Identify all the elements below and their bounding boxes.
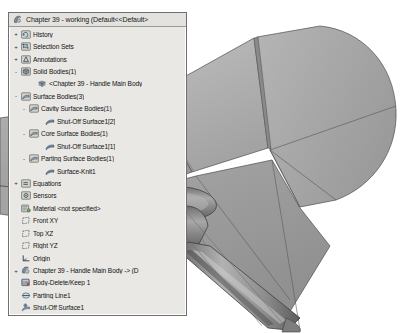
plane-icon xyxy=(20,216,31,226)
tree-node-label: Cavity Surface Bodies(1) xyxy=(41,105,112,112)
origin-icon xyxy=(20,253,31,263)
collapse-twisty-icon[interactable]: - xyxy=(20,131,28,137)
tree-node[interactable]: -Surface Bodies(3) xyxy=(9,90,186,102)
plane-icon xyxy=(20,241,31,251)
tree-node-label: Equations xyxy=(33,180,61,187)
tree-node-label: Shut-Off Surface1[1] xyxy=(57,143,115,150)
tree-node-label: Selection Sets xyxy=(33,43,74,50)
tree-node[interactable]: Top XZ xyxy=(9,227,186,239)
tree-node[interactable]: Surface-Knit1 xyxy=(9,165,186,177)
tree-node[interactable]: Material <not specified> xyxy=(9,202,186,214)
tree-node-label: Parting Surface Bodies(1) xyxy=(41,155,114,162)
tree-node[interactable]: Body-Delete/Keep 1 xyxy=(9,277,186,289)
expand-twisty-icon[interactable]: + xyxy=(12,268,20,274)
tree-node-label: <Chapter 39 - Handle Main Body xyxy=(49,80,142,87)
tree-node-label: Right YZ xyxy=(33,242,58,249)
solid-body-icon xyxy=(36,79,47,89)
collapse-twisty-icon[interactable]: - xyxy=(12,93,20,99)
tree-node[interactable]: Shut-Off Surface1 xyxy=(9,302,186,314)
tree-node-label: Top XZ xyxy=(33,230,53,237)
tree-node-label: Shut-Off Surface1[2] xyxy=(57,118,115,125)
surface-icon xyxy=(44,166,55,176)
parting-line-icon xyxy=(20,290,31,300)
surface-bodies-icon xyxy=(28,154,39,164)
tree-node-label: Surface-Knit1 xyxy=(57,168,96,175)
expand-twisty-icon[interactable]: + xyxy=(12,180,20,186)
equations-icon xyxy=(20,178,31,188)
tree-node[interactable]: -Cavity Surface Bodies(1) xyxy=(9,103,186,115)
selection-sets-icon xyxy=(20,42,31,52)
collapse-twisty-icon[interactable]: - xyxy=(12,69,20,75)
surface-icon xyxy=(44,141,55,151)
expand-twisty-icon[interactable]: + xyxy=(12,44,20,50)
surface-bodies-icon xyxy=(28,129,39,139)
document-icon xyxy=(12,15,23,25)
body-delete-keep-icon xyxy=(20,278,31,288)
tree-node[interactable]: Parting Line1 xyxy=(9,289,186,301)
tree-node[interactable]: Origin xyxy=(9,252,186,264)
parting-surface-icon xyxy=(20,315,31,316)
tree-node-label: Annotations xyxy=(33,56,67,63)
tree-node-label: Origin xyxy=(33,255,50,262)
surface-bodies-icon xyxy=(28,104,39,114)
annotations-icon xyxy=(20,54,31,64)
tree-node[interactable]: Right YZ xyxy=(9,239,186,251)
solid-bodies-icon xyxy=(20,67,31,77)
tree-title-text: Chapter 39 - working (Default<<Default> xyxy=(26,13,148,26)
tree-node-label: Front XY xyxy=(33,217,58,224)
tree-node-list[interactable]: +History+Selection Sets+Annotations-Soli… xyxy=(9,27,186,316)
tree-node[interactable]: <Chapter 39 - Handle Main Body xyxy=(9,78,186,90)
tree-node[interactable]: -Core Surface Bodies(1) xyxy=(9,128,186,140)
tree-node-label: Surface Bodies(3) xyxy=(33,93,84,100)
sensors-icon xyxy=(20,191,31,201)
tree-node[interactable]: -Parting Surface Bodies(1) xyxy=(9,152,186,164)
tree-node-label: Sensors xyxy=(33,192,57,199)
tree-node-label: Material <not specified> xyxy=(33,205,101,212)
tree-node[interactable]: Shut-Off Surface1[2] xyxy=(9,115,186,127)
tree-node-label: Shut-Off Surface1 xyxy=(33,304,84,311)
tree-node-label: Body-Delete/Keep 1 xyxy=(33,279,90,286)
collapse-twisty-icon[interactable]: - xyxy=(20,156,28,162)
tree-node-label: Parting Line1 xyxy=(33,292,71,299)
tree-node-label: Core Surface Bodies(1) xyxy=(41,130,108,137)
tree-node-label: History xyxy=(33,31,53,38)
material-icon xyxy=(20,203,31,213)
surface-bodies-icon xyxy=(20,91,31,101)
tree-node-label: Chapter 39 - Handle Main Body -> (D xyxy=(33,267,139,274)
tree-node[interactable]: +Annotations xyxy=(9,53,186,65)
tree-node[interactable]: Parting Surface1 xyxy=(9,314,186,316)
surface-icon xyxy=(44,116,55,126)
tree-title-bar[interactable]: Chapter 39 - working (Default<<Default> xyxy=(9,13,186,27)
part-icon xyxy=(20,266,31,276)
tree-node[interactable]: +Equations xyxy=(9,177,186,189)
tree-node[interactable]: Shut-Off Surface1[1] xyxy=(9,140,186,152)
tree-node[interactable]: Front XY xyxy=(9,215,186,227)
expand-twisty-icon[interactable]: + xyxy=(12,56,20,62)
history-icon xyxy=(20,29,31,39)
tree-node[interactable]: +Selection Sets xyxy=(9,40,186,52)
plane-icon xyxy=(20,228,31,238)
tree-node-label: Solid Bodies(1) xyxy=(33,68,76,75)
collapse-twisty-icon[interactable]: - xyxy=(20,106,28,112)
shut-off-surface-icon xyxy=(20,303,31,313)
expand-twisty-icon[interactable]: + xyxy=(12,31,20,37)
featuremanager-design-tree-panel[interactable]: Chapter 39 - working (Default<<Default> … xyxy=(8,12,187,316)
tree-node[interactable]: -Solid Bodies(1) xyxy=(9,65,186,77)
tree-node[interactable]: +Chapter 39 - Handle Main Body -> (D xyxy=(9,264,186,276)
tree-node[interactable]: Sensors xyxy=(9,190,186,202)
tree-node[interactable]: +History xyxy=(9,28,186,40)
